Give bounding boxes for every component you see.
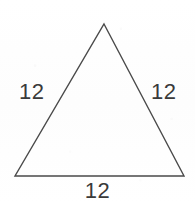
right-side-length-label: 12	[151, 81, 176, 103]
base-side-length-label: 12	[0, 180, 195, 202]
left-side-length-label: 12	[19, 81, 44, 103]
geometry-figure: 12 12 12	[0, 0, 195, 205]
